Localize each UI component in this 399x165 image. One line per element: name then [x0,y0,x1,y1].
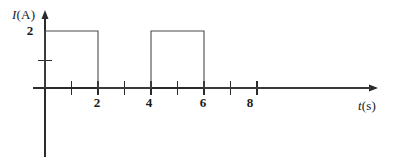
y-tick-label-2: 2 [22,24,38,37]
x-tick-label-2: 2 [89,96,105,109]
x-axis-title: t(s) [358,99,376,112]
y-axis-title: I(A) [12,8,35,21]
y-axis-arrow-icon [42,10,49,19]
current-vs-time-figure: I(A) t(s) 2 2 4 6 8 [0,0,399,165]
x-axis-title-unit: (s) [362,98,376,113]
plot-canvas [0,0,399,165]
y-axis-title-unit: (A) [17,7,36,22]
current-waveform-trace [45,31,371,88]
x-tick-label-6: 6 [195,96,211,109]
x-tick-label-8: 8 [242,96,258,109]
x-tick-label-4: 4 [141,96,157,109]
